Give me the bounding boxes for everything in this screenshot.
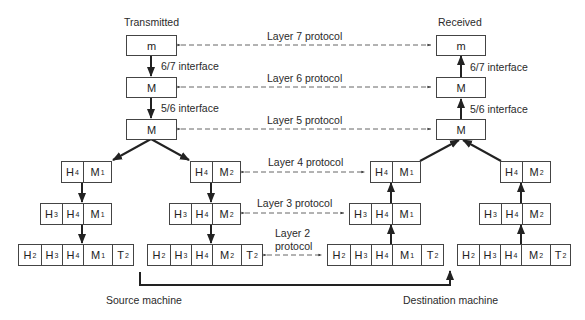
src1-layer3-packet: H3 H4 M1 [40,203,112,225]
label-layer7-protocol: Layer 7 protocol [267,30,342,42]
box-layer6-src: M [126,77,177,98]
label-56-interface-src: 5/6 interface [161,102,219,114]
label-destination-machine: Destination machine [403,294,498,306]
label-67-interface-dst: 6/7 interface [470,61,528,73]
label-layer2-line2: protocol [275,240,312,252]
label-layer4-protocol: Layer 4 protocol [268,156,343,168]
box-layer7-src: m [126,35,177,56]
physical-link-bracket [140,272,450,285]
branch-left [113,139,151,160]
dst1-layer3-packet: H3 H4 M1 [349,203,421,225]
label-67-interface-src: 6/7 interface [161,60,219,72]
src1-layer4-packet: H4 M1 [61,161,112,183]
src2-layer4-packet: H4 M2 [190,161,241,183]
src2-layer3-packet: H3 H4 M2 [169,203,241,225]
box-layer5-src: M [126,119,177,140]
label-source-machine: Source machine [106,294,182,306]
label-layer5-protocol: Layer 5 protocol [267,114,342,126]
dst2-layer3-packet: H3 H4 M2 [479,203,551,225]
merge-right [463,140,501,161]
heading-transmitted: Transmitted [124,16,179,28]
dst1-layer2-frame: H2 H3 H4 M1 T2 [327,244,444,266]
label-layer3-protocol: Layer 3 protocol [257,197,332,209]
label-56-interface-dst: 5/6 interface [470,103,528,115]
box-layer7-dst: m [436,35,486,56]
branch-right [151,139,189,160]
dst2-layer2-frame: H2 H3 H4 M2 T2 [457,244,571,266]
box-layer5-dst: M [436,119,486,140]
dst1-layer4-packet: H4 M1 [370,161,421,183]
label-layer2-line1: Layer 2 [275,227,310,239]
heading-received: Received [438,16,482,28]
dst2-layer4-packet: H4 M2 [500,161,551,183]
src1-layer2-frame: H2 H3 H4 M1 T2 [18,244,134,266]
merge-left [420,140,459,161]
label-layer6-protocol: Layer 6 protocol [267,72,342,84]
src2-layer2-frame: H2 H3 H4 M2 T2 [147,244,263,266]
box-layer6-dst: M [436,77,486,98]
